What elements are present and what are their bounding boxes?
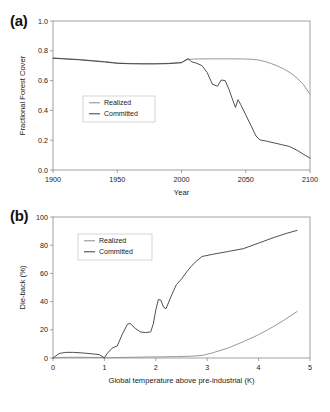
y-axis-title: Fractional Forest Cover [18,55,27,135]
y-tick-label: 0.2 [38,136,48,145]
y-tick-label: 60 [40,269,48,278]
legend-label-realized: Realized [104,99,131,106]
y-axis-title: Die-back (%) [18,265,27,309]
x-tick-label: 2 [154,363,158,372]
series-line-realized [53,311,297,358]
y-tick-label: 0.8 [38,46,48,55]
x-tick-label: 0 [51,363,55,372]
x-tick-label: 5 [308,363,312,372]
y-tick-label: 40 [40,297,48,306]
x-tick-label: 1950 [109,175,125,184]
x-tick-label: 1900 [45,175,61,184]
y-tick-label: 0.6 [38,76,48,85]
x-tick-label: 2050 [238,175,254,184]
legend-label-realized: Realized [99,237,126,244]
panel-a: (a) 0.00.20.40.60.81.0190019502000205021… [0,0,330,206]
y-tick-label: 80 [40,241,48,250]
x-tick-label: 3 [205,363,209,372]
y-tick-label: 100 [36,213,48,222]
y-tick-label: 1.0 [38,17,48,26]
x-tick-label: 1 [102,363,106,372]
y-tick-label: 0.4 [38,106,48,115]
panel-a-plot: 0.00.20.40.60.81.019001950200020502100Ye… [0,0,330,206]
x-tick-label: 2100 [302,175,318,184]
series-line-realized [53,58,310,94]
y-tick-label: 0.0 [38,166,48,175]
legend-label-committed: Committed [104,110,138,117]
y-tick-label: 20 [40,325,48,334]
panel-b: (b) 020406080100012345Global temperature… [0,195,330,412]
x-tick-label: 2000 [174,175,190,184]
legend-label-committed: Committed [99,248,133,255]
figure-container: (a) 0.00.20.40.60.81.0190019502000205021… [0,0,330,412]
y-tick-label: 0 [44,354,48,363]
x-axis-title: Global temperature above pre-industrial … [108,376,255,385]
plot-frame [53,21,310,170]
panel-b-plot: 020406080100012345Global temperature abo… [0,195,330,412]
x-tick-label: 4 [257,363,261,372]
